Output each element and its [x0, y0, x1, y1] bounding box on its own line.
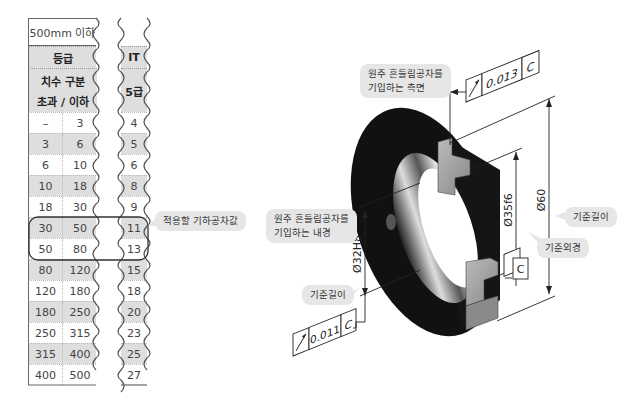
callout-ref-length-left: 기준길이	[302, 285, 354, 305]
bolt-hole	[386, 214, 396, 230]
callout-inner-dia-line1: 원주 흔들림공차를	[274, 212, 349, 226]
datum-c-label: C	[517, 263, 525, 276]
dim-pilot-diameter: Ø35f6	[502, 193, 515, 227]
callout-inner-diameter: 원주 흔들림공차를 기입하는 내경	[266, 209, 357, 243]
dim-outer-diameter: Ø60	[535, 189, 548, 212]
callout-side-face-line2: 기입하는 측면	[368, 81, 443, 95]
callout-ref-outer-diameter: 기준외경	[537, 238, 589, 258]
fcf-top: 0.013 C	[466, 51, 539, 102]
callout-side-face-line1: 원주 흔들림공차를	[368, 67, 443, 81]
callout-ref-length-right: 기준길이	[565, 207, 617, 227]
callout-side-face: 원주 흔들림공차를 기입하는 측면	[360, 64, 451, 98]
callout-inner-dia-line2: 기입하는 내경	[274, 226, 349, 240]
flange-drawing: C 0.013 C 0.011 C Ø60 Ø35f6 Ø32H8	[0, 0, 631, 408]
fcf-bottom: 0.011 C	[293, 309, 356, 356]
